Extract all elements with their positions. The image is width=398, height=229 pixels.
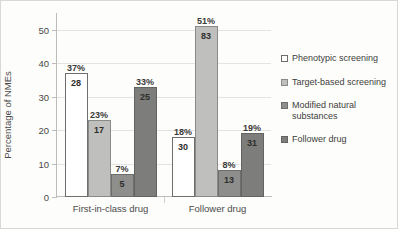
bar: 7%5 (111, 174, 134, 197)
legend-swatch-icon (281, 102, 288, 109)
bar-count-label: 5 (119, 179, 124, 189)
bar-count-label: 30 (178, 142, 188, 152)
y-tick-label: 40 (38, 58, 49, 69)
gridline (57, 63, 271, 64)
bar-percent-label: 23% (90, 110, 108, 120)
bar-percent-label: 18% (174, 127, 192, 137)
bar: 19%31 (241, 133, 264, 197)
bar-count-label: 28 (71, 78, 81, 88)
bar-percent-label: 33% (136, 77, 154, 87)
legend-label: Phenotypic screening (292, 53, 378, 64)
bar: 8%13 (218, 170, 241, 197)
bar-count-label: 25 (140, 92, 150, 102)
legend-label: Modified natural substances (292, 100, 395, 121)
y-tick-mark (52, 30, 57, 31)
chart-figure: Percentage of NMEs 01020304050 37%2823%1… (0, 0, 398, 229)
category-label: First-in-class drug (73, 203, 149, 214)
bar-percent-label: 51% (197, 16, 215, 26)
legend: Phenotypic screeningTarget-based screeni… (281, 53, 395, 158)
gridline (57, 30, 271, 31)
y-tick-mark (52, 197, 57, 198)
bar-count-label: 17 (94, 125, 104, 135)
y-tick-label: 0 (44, 192, 49, 203)
legend-item[interactable]: Follower drug (281, 134, 395, 145)
legend-label: Follower drug (292, 134, 347, 145)
bar-percent-label: 8% (222, 160, 235, 170)
bar: 51%83 (195, 26, 218, 197)
legend-item[interactable]: Target-based screening (281, 77, 395, 88)
legend-label: Target-based screening (292, 77, 386, 88)
bar-count-label: 13 (224, 175, 234, 185)
y-axis-line (56, 13, 57, 197)
y-tick-mark (52, 97, 57, 98)
y-tick-mark (52, 130, 57, 131)
legend-item[interactable]: Phenotypic screening (281, 53, 395, 64)
bar-count-label: 83 (201, 31, 211, 41)
category-separator (164, 197, 165, 203)
bar: 33%25 (134, 87, 157, 197)
bar: 37%28 (65, 73, 88, 197)
legend-swatch-icon (281, 55, 288, 62)
bar: 18%30 (172, 137, 195, 197)
bar: 23%17 (88, 120, 111, 197)
y-tick-mark (52, 164, 57, 165)
y-tick-label: 10 (38, 158, 49, 169)
bar-percent-label: 7% (115, 164, 128, 174)
legend-swatch-icon (281, 136, 288, 143)
legend-swatch-icon (281, 79, 288, 86)
category-label: Follower drug (189, 203, 247, 214)
legend-item[interactable]: Modified natural substances (281, 100, 395, 121)
y-axis-label: Percentage of NMEs (2, 71, 13, 159)
bar-percent-label: 37% (67, 63, 85, 73)
y-tick-label: 30 (38, 91, 49, 102)
y-tick-mark (52, 63, 57, 64)
bar-percent-label: 19% (243, 123, 261, 133)
y-tick-label: 20 (38, 125, 49, 136)
y-tick-label: 50 (38, 24, 49, 35)
bar-count-label: 31 (247, 138, 257, 148)
plot-area: 01020304050 37%2823%177%533%2518%3051%83… (57, 13, 271, 197)
gridline (57, 97, 271, 98)
